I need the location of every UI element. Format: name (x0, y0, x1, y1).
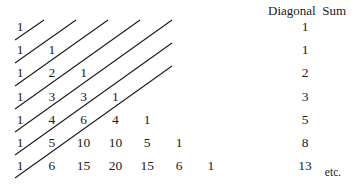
pascal-entry: 1 (17, 43, 24, 57)
diagonal-line (15, 20, 140, 109)
pascal-entry: 6 (176, 159, 183, 173)
pascal-entry: 1 (17, 20, 24, 34)
pascal-entry: 10 (77, 136, 91, 150)
pascal-entry: 1 (17, 159, 24, 173)
diagonal-sum-value: 2 (302, 66, 309, 80)
pascal-entry: 4 (48, 113, 55, 127)
pascal-entry: 5 (144, 136, 151, 150)
pascal-entry: 6 (80, 113, 87, 127)
diagonal-sum-value: 3 (302, 90, 309, 104)
diagonal-line (15, 20, 108, 86)
pascal-entry: 5 (48, 136, 55, 150)
pascal-entry: 1 (17, 136, 24, 150)
pascal-entry: 20 (109, 159, 123, 173)
pascal-entry: 2 (48, 66, 55, 80)
pascal-entry: 1 (17, 90, 24, 104)
pascal-entry: 1 (144, 113, 151, 127)
diagonal-sum-value: 1 (302, 43, 309, 57)
pascal-entry: 1 (176, 136, 183, 150)
pascal-entry: 1 (17, 113, 24, 127)
pascal-entry: 6 (48, 159, 55, 173)
diagonal-sum-value: 1 (302, 20, 309, 34)
diagonal-sum-value: 5 (302, 113, 309, 127)
pascal-entry: 1 (17, 66, 24, 80)
pascal-entry: 1 (207, 159, 214, 173)
pascal-entry: 1 (112, 90, 119, 104)
pascal-entry: 1 (80, 66, 87, 80)
diagonal-sum-value: 8 (302, 136, 309, 150)
pascal-triangle-figure: 111121133114641151010511615201561 Diagon… (0, 0, 356, 189)
diagonal-sum-value: 13 (298, 159, 312, 173)
pascal-entry: 4 (112, 113, 119, 127)
diagonal-line (15, 20, 76, 63)
diagonal-sum-header: Diagonal Sum (268, 4, 346, 18)
pascal-entry: 3 (80, 90, 87, 104)
pascal-entry: 3 (48, 90, 55, 104)
pascal-entry: 15 (140, 159, 154, 173)
etc-label: etc. (325, 166, 341, 178)
pascal-entry: 10 (109, 136, 123, 150)
pascal-entry: 1 (48, 43, 55, 57)
pascal-entry: 15 (77, 159, 91, 173)
